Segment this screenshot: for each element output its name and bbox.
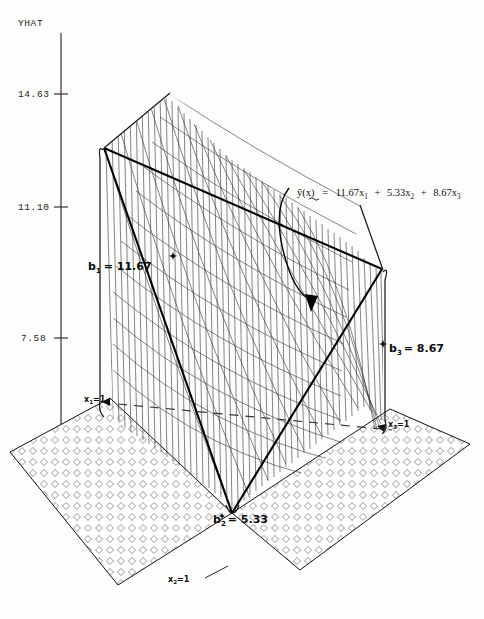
axis-tick-1: 11.10 (18, 202, 50, 213)
b1-value: = 11.67 (104, 260, 152, 273)
equation-term3: 8.67x (433, 187, 457, 198)
x2-pointer (205, 566, 228, 578)
svg-text:ŷ(x) = 11.67x1: ŷ(x) = 11.67x1 + 5.33x2 + 8.67x3 (297, 187, 461, 201)
vertex-label-x2: x2=1 (168, 566, 228, 585)
axis-title-yhat: YHAT (18, 18, 43, 29)
b2-value: = 5.33 (228, 513, 268, 526)
equation-term2-sub: 2 (411, 193, 415, 201)
equation-plus2: + (421, 187, 427, 198)
equation-arrowhead (305, 294, 318, 312)
svg-text:x2=1: x2=1 (168, 575, 190, 585)
coefficient-b3: b3= 8.67 (378, 339, 444, 357)
x2-eq: =1 (177, 575, 190, 584)
axis-tick-0: 14.63 (18, 89, 50, 100)
svg-text:b1= 11.67: b1= 11.67 (88, 260, 152, 275)
equation-term2: 5.33x (387, 187, 411, 198)
response-surface-figure: YHAT 14.63 11.10 7.58 4.05 (0, 0, 484, 619)
equation-lhs: ŷ(x) (297, 187, 315, 199)
vector-tilde (309, 198, 319, 200)
svg-text:x3=1: x3=1 (388, 420, 410, 430)
equation-term1-sub: 1 (364, 193, 368, 201)
svg-text:x1=1: x1=1 (84, 395, 106, 405)
b1-name: b (88, 260, 96, 273)
svg-text:b3= 8.67: b3= 8.67 (389, 342, 444, 357)
simplex-floor (0, 380, 484, 600)
b3-brace (378, 339, 388, 349)
b3-sub: 3 (397, 349, 402, 357)
x3-eq: =1 (397, 420, 410, 429)
b3-value: = 8.67 (404, 342, 444, 355)
b1-sub: 1 (96, 267, 101, 275)
b2-sub: 2 (221, 520, 226, 528)
b2-name: b (213, 513, 221, 526)
equation-annotation: ŷ(x) = 11.67x1 + 5.33x2 + 8.67x3 (279, 187, 461, 312)
equation-term1: 11.67x (336, 187, 365, 198)
figure-root: YHAT 14.63 11.10 7.58 4.05 (0, 0, 484, 619)
yhat-axis (54, 33, 68, 466)
equation-plus1: + (374, 187, 380, 198)
equation-equals: = (322, 187, 328, 198)
b3-name: b (389, 342, 397, 355)
axis-tick-2: 7.58 (21, 333, 46, 344)
b1-brace (168, 251, 178, 261)
equation-term3-sub: 3 (457, 193, 461, 201)
